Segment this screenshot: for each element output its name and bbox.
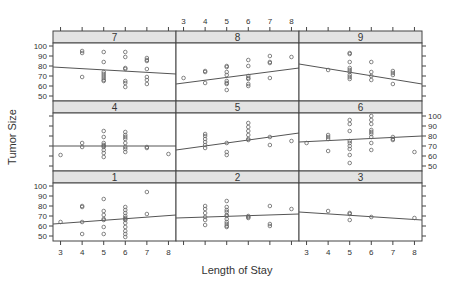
x-tick-label-bottom: 4 <box>326 248 331 257</box>
y-tick-label-right: 90 <box>428 122 437 131</box>
panel-5: 5 <box>176 101 299 171</box>
panel-6: 6 <box>299 101 422 171</box>
y-tick-label-left: 90 <box>38 52 47 61</box>
y-tick-label-left: 100 <box>34 42 48 51</box>
panel-7: 7 <box>53 31 176 101</box>
x-tick-label-bottom: 8 <box>412 248 417 257</box>
y-tick-label-left: 60 <box>38 222 47 231</box>
x-tick-label-bottom: 6 <box>369 248 374 257</box>
strip-label: 1 <box>112 172 118 183</box>
x-axis-label: Length of Stay <box>202 264 273 276</box>
x-tick-label-bottom: 7 <box>391 248 396 257</box>
x-tick-label-bottom: 3 <box>58 248 63 257</box>
x-tick-label-bottom: 6 <box>123 248 128 257</box>
panel-4: 4 <box>53 101 176 171</box>
y-tick-label-left: 80 <box>38 62 47 71</box>
x-tick-label-top: 3 <box>181 17 186 26</box>
y-tick-label-right: 100 <box>428 112 442 121</box>
x-tick-label-bottom: 7 <box>145 248 150 257</box>
y-tick-label-left: 90 <box>38 192 47 201</box>
strip-label: 4 <box>112 102 118 113</box>
y-tick-label-left: 100 <box>34 182 48 191</box>
strip-label: 5 <box>235 102 241 113</box>
panel-1: 1 <box>53 171 176 241</box>
y-tick-label-right: 80 <box>428 132 437 141</box>
y-tick-label-left: 80 <box>38 202 47 211</box>
strip-label: 3 <box>358 172 364 183</box>
y-tick-label-left: 60 <box>38 82 47 91</box>
y-axis-label: Tumor Size <box>6 109 18 165</box>
x-tick-label-bottom: 3 <box>304 248 309 257</box>
panels-group: 789456123 <box>53 31 422 241</box>
panel-body <box>53 43 176 101</box>
x-tick-label-top: 4 <box>203 17 208 26</box>
panel-body <box>299 43 422 101</box>
panel-2: 2 <box>176 171 299 241</box>
panel-body <box>176 43 299 101</box>
panel-3: 3 <box>299 171 422 241</box>
y-tick-label-left: 70 <box>38 72 47 81</box>
x-tick-label-top: 7 <box>268 17 273 26</box>
panel-body <box>299 183 422 241</box>
x-tick-label-top: 5 <box>224 17 229 26</box>
y-tick-label-left: 50 <box>38 232 47 241</box>
panel-body <box>299 113 422 171</box>
x-tick-label-top: 8 <box>289 17 294 26</box>
panel-8: 8 <box>176 31 299 101</box>
y-tick-label-right: 50 <box>428 162 437 171</box>
y-tick-label-right: 60 <box>428 152 437 161</box>
panel-body <box>176 183 299 241</box>
panel-body <box>53 183 176 241</box>
panel-9: 9 <box>299 31 422 101</box>
trellis-scatter-chart: 789456123 345678345678345678506070809010… <box>0 0 454 288</box>
panel-body <box>53 113 176 171</box>
y-tick-label-right: 70 <box>428 142 437 151</box>
x-tick-label-bottom: 8 <box>166 248 171 257</box>
x-tick-label-bottom: 5 <box>101 248 106 257</box>
strip-label: 9 <box>358 32 364 43</box>
y-tick-label-left: 70 <box>38 212 47 221</box>
strip-label: 6 <box>358 102 364 113</box>
x-tick-label-top: 6 <box>246 17 251 26</box>
strip-label: 7 <box>112 32 118 43</box>
y-tick-label-left: 50 <box>38 92 47 101</box>
strip-label: 8 <box>235 32 241 43</box>
strip-label: 2 <box>235 172 241 183</box>
x-tick-label-bottom: 5 <box>347 248 352 257</box>
x-tick-label-bottom: 4 <box>80 248 85 257</box>
